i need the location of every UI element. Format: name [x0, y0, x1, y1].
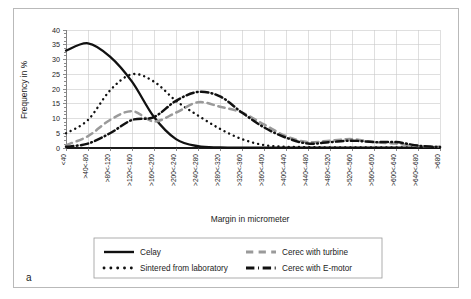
- x-tick-label: >400<-440: [280, 154, 287, 186]
- y-axis-tick-labels: 0510152025303540: [52, 26, 60, 153]
- y-tick-label: 25: [52, 70, 60, 79]
- chart-legend: CelaySintered from laboratoryCerec with …: [94, 238, 382, 278]
- y-tick-label: 5: [56, 129, 60, 138]
- series-layer: [66, 43, 440, 148]
- series-line-cerec-with-e-motor: [66, 92, 440, 147]
- x-tick-label: >120<-160: [126, 154, 133, 186]
- x-axis-tick-labels: <40>40<-80>80<-120>120<-160>160<-200>200…: [60, 154, 441, 186]
- y-tick-label: 15: [52, 99, 60, 108]
- x-tick-label: >440<-480: [302, 154, 309, 186]
- x-tick-label: >360<-400: [258, 154, 265, 186]
- x-tick-label: >520<-560: [346, 154, 353, 186]
- x-tick-label: >240<-280: [192, 154, 199, 186]
- y-tick-label: 35: [52, 40, 60, 49]
- legend-label: Cerec with E-motor: [282, 264, 352, 273]
- y-tick-label: 10: [52, 114, 60, 123]
- y-tick-label: 20: [52, 85, 60, 94]
- frequency-distribution-chart: 0510152025303540 <40>40<-80>80<-120>120<…: [0, 0, 471, 299]
- y-tick-label: 40: [52, 26, 60, 35]
- x-tick-label: >40<-80: [82, 154, 89, 179]
- panel-letter-label: a: [26, 272, 32, 283]
- x-tick-label: >600<-640: [390, 154, 397, 186]
- y-tick-label: 0: [56, 144, 60, 153]
- grid-layer: [66, 30, 440, 148]
- x-tick-label: >80<-120: [104, 154, 111, 183]
- x-tick-label: >560<-600: [368, 154, 375, 186]
- x-axis-title: Margin in micrometer: [211, 214, 290, 224]
- x-tick-label: >160<-200: [148, 154, 155, 186]
- x-tick-label: >680: [434, 154, 441, 169]
- legend-label: Cerec with turbine: [282, 248, 348, 257]
- y-axis-title: Frequency in %: [19, 60, 29, 119]
- legend-label: Celay: [140, 248, 162, 257]
- x-tick-label: >640<-680: [412, 154, 419, 186]
- series-line-celay: [66, 43, 440, 148]
- chart-canvas: 0510152025303540 <40>40<-80>80<-120>120<…: [0, 0, 471, 299]
- axis-layer: [63, 30, 440, 151]
- x-tick-label: >280<-320: [214, 154, 221, 186]
- x-tick-label: >200<-240: [170, 154, 177, 186]
- legend-label: Sintered from laboratory: [140, 264, 229, 273]
- series-line-sintered-from-laboratory: [66, 74, 440, 148]
- x-tick-label: >320<-360: [236, 154, 243, 186]
- x-tick-label: >480<-520: [324, 154, 331, 186]
- figure-panel: 0510152025303540 <40>40<-80>80<-120>120<…: [0, 0, 471, 299]
- y-tick-label: 30: [52, 55, 60, 64]
- x-tick-label: <40: [60, 154, 67, 166]
